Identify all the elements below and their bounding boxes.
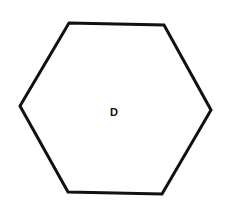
hexagon-label: D	[110, 106, 118, 118]
diagram-canvas: D	[0, 0, 225, 205]
